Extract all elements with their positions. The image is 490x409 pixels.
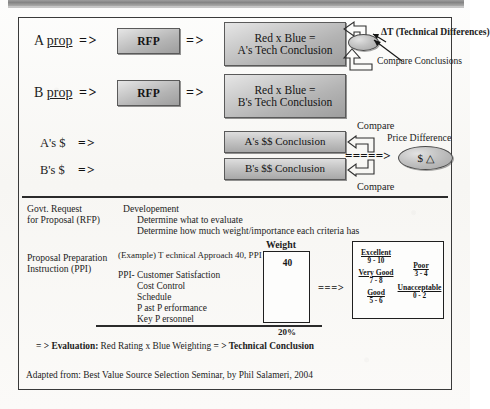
- arrow-b-to-rfp: = >: [79, 85, 95, 101]
- technical-differences-label: ΔT (Technical Differences): [381, 26, 490, 37]
- rating-poor: Poor 3 - 4: [400, 261, 442, 278]
- attribution: Adapted from: Best Value Source Selectio…: [26, 370, 313, 380]
- money-label-b: B's $: [40, 163, 65, 178]
- tech-conclusion-b-line2: B's Tech Conclusion: [238, 96, 332, 108]
- table-row2-left-line1: Proposal Preparation: [27, 252, 107, 263]
- weight-value: 40: [264, 258, 311, 268]
- rating-poor-range: 3 - 4: [400, 270, 442, 278]
- tech-conclusion-a-line2: A's Tech Conclusion: [238, 44, 333, 56]
- weight-box: 40: [263, 251, 310, 323]
- rating-good-label: Good: [355, 288, 397, 297]
- tech-conclusion-box-b: Red x Blue = B's Tech Conclusion: [224, 74, 346, 118]
- ppi-line-5: Key P ersonnel: [137, 314, 194, 324]
- price-difference-node: $ △: [398, 146, 453, 170]
- table-row1-left-line1: Govt. Request: [27, 203, 82, 214]
- arrow-rfp-a-to-conclusion: = >: [186, 33, 202, 49]
- table-row1-right-line1: Developement: [123, 203, 179, 214]
- table-row1-right-line3: Determine how much weight/importance eac…: [137, 225, 359, 236]
- rfp-box-b: RFP: [117, 80, 180, 106]
- arrow-weight-to-rating: = = = >: [318, 282, 343, 293]
- compare-conclusions-label: Compare Conclusions: [377, 55, 462, 66]
- tech-conclusion-box-a: Red x Blue = A's Tech Conclusion: [224, 22, 346, 66]
- cropped-top-strip: [8, 0, 464, 6]
- evaluation-middle: Red Rating x Blue Weighting: [98, 341, 213, 351]
- input-label-a-underlined: prop: [47, 33, 73, 48]
- table-row1-right-line2: Determine what to evaluate: [137, 214, 243, 225]
- money-conclusion-box-b: B's $$ Conclusion: [224, 158, 346, 180]
- price-difference-label: Price Difference: [387, 132, 451, 143]
- dashed-arrow-to-price-difference: = = = = = >: [345, 148, 389, 164]
- arrow-money-b: = >: [78, 162, 94, 178]
- rating-poor-label: Poor: [400, 261, 442, 270]
- ppi-line-2: Cost Control: [137, 281, 185, 291]
- ppi-example-line: (Example) T echnical Approach 40, PPI 40…: [118, 250, 275, 260]
- rating-good: Good 5 - 6: [355, 288, 397, 305]
- input-label-a: A prop: [34, 33, 73, 49]
- evaluation-prefix: = >: [36, 341, 51, 351]
- evaluation-label: Evaluation:: [51, 341, 98, 351]
- evaluation-arrow: = >: [213, 341, 228, 351]
- rating-very-good-range: 7 - 8: [354, 277, 398, 285]
- rfp-box-a: RFP: [117, 28, 180, 54]
- arrow-rfp-b-to-conclusion: = >: [186, 85, 202, 101]
- evaluation-tail: Technical Conclusion: [229, 341, 314, 351]
- price-difference-symbol: $ △: [417, 152, 433, 165]
- weight-percent: 20%: [278, 327, 296, 337]
- table-row2-left-line2: Instruction (PPI): [27, 263, 91, 274]
- rating-unacceptable: Unacceptable 0 - 2: [396, 283, 443, 300]
- arrow-money-a: = >: [78, 135, 94, 151]
- rating-scale-box: Excellent 9 - 10 Very Good 7 - 8 Good 5 …: [352, 241, 444, 319]
- arrow-a-to-rfp: = >: [79, 33, 95, 49]
- input-label-b: B prop: [34, 85, 73, 101]
- rating-excellent: Excellent 9 - 10: [355, 248, 397, 265]
- weight-header: Weight: [266, 239, 296, 250]
- rating-good-range: 5 - 6: [355, 297, 397, 305]
- evaluation-summary: = > Evaluation: Red Rating x Blue Weight…: [36, 341, 314, 351]
- rating-excellent-range: 9 - 10: [355, 257, 397, 265]
- money-conclusion-box-a: A's $$ Conclusion: [224, 131, 346, 153]
- rating-unacceptable-label: Unacceptable: [396, 283, 443, 292]
- rating-unacceptable-range: 0 - 2: [396, 292, 443, 300]
- table-row1-left-line2: for Proposal (RFP): [27, 214, 100, 225]
- ppi-line-4: P ast P erformance: [137, 303, 207, 313]
- ppi-line-1: PPI- Customer Satisfaction: [118, 270, 220, 280]
- rating-excellent-label: Excellent: [355, 248, 397, 257]
- table-top-rule: [22, 196, 448, 198]
- tech-conclusion-b-line1: Red x Blue =: [254, 84, 315, 96]
- compare-bottom-label: Compare: [357, 181, 394, 192]
- ppi-line-3: Schedule: [137, 292, 171, 302]
- input-label-b-underlined: prop: [47, 85, 73, 100]
- rating-very-good: Very Good 7 - 8: [354, 268, 398, 285]
- rating-very-good-label: Very Good: [354, 268, 398, 277]
- money-label-a: A's $: [40, 136, 66, 151]
- tech-conclusion-a-line1: Red x Blue =: [254, 32, 315, 44]
